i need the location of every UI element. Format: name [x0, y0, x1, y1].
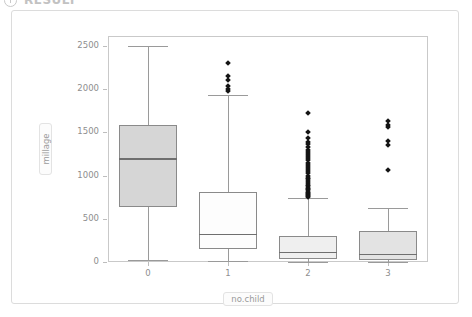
- y-axis-tick-mark: [103, 176, 107, 177]
- x-axis-tick-label: 1: [218, 268, 238, 278]
- y-axis-tick-mark: [103, 262, 107, 263]
- median-line: [199, 234, 257, 235]
- y-axis-label: millage: [39, 123, 52, 175]
- box-iqr: [119, 125, 177, 207]
- median-line: [359, 254, 417, 255]
- median-line: [279, 252, 337, 253]
- header-title: RESULT: [24, 0, 77, 7]
- box-iqr: [279, 236, 337, 258]
- whisker-upper: [308, 198, 309, 236]
- whisker-cap-lower: [288, 262, 327, 263]
- median-line: [119, 158, 177, 159]
- box-iqr: [199, 192, 257, 249]
- whisker-upper: [148, 46, 149, 125]
- x-axis-tick-mark: [308, 262, 309, 266]
- x-axis-tick-mark: [388, 262, 389, 266]
- x-axis-tick-label: 0: [138, 268, 158, 278]
- y-axis-tick-label: 2500: [77, 40, 99, 50]
- y-axis-label-text: millage: [41, 133, 51, 164]
- y-axis-tick-mark: [103, 89, 107, 90]
- y-axis-tick-label: 1500: [77, 126, 99, 136]
- x-axis-label: no.child: [223, 292, 273, 306]
- x-axis-tick-label: 3: [378, 268, 398, 278]
- y-axis-tick-mark: [103, 46, 107, 47]
- whisker-cap-lower: [368, 262, 407, 263]
- x-axis-tick-label: 2: [298, 268, 318, 278]
- whisker-cap-upper: [368, 208, 407, 209]
- y-axis-tick-label: 500: [83, 213, 99, 223]
- figure-card: millage no.child 05001000150020002500 01…: [11, 10, 459, 304]
- info-circle-icon: [4, 0, 17, 7]
- whisker-upper: [228, 95, 229, 192]
- x-axis-tick-mark: [228, 262, 229, 266]
- whisker-cap-upper: [208, 95, 247, 96]
- y-axis-tick-label: 0: [94, 256, 99, 266]
- x-axis-tick-mark: [148, 262, 149, 266]
- y-axis-tick-mark: [103, 132, 107, 133]
- whisker-cap-lower: [128, 260, 167, 261]
- whisker-cap-upper: [128, 46, 167, 47]
- whisker-lower: [228, 249, 229, 261]
- whisker-lower: [148, 207, 149, 261]
- y-axis-tick-label: 2000: [77, 83, 99, 93]
- y-axis-tick-mark: [103, 219, 107, 220]
- whisker-cap-lower: [208, 261, 247, 262]
- whisker-upper: [388, 208, 389, 231]
- y-axis-tick-label: 1000: [77, 170, 99, 180]
- box-iqr: [359, 231, 417, 260]
